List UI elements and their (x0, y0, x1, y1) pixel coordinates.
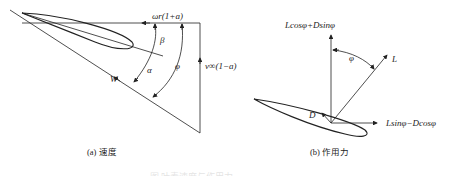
phi-label-b: φ (349, 54, 354, 63)
figure-caption: 图 叶素速度与作用力 (150, 170, 300, 176)
caption-b: (b) 作用力 (310, 148, 349, 157)
w-label: W (110, 75, 118, 84)
alpha-label: α (147, 66, 152, 75)
lift-arrow (331, 55, 387, 123)
v-inf-label: v∞(1−a) (205, 62, 236, 71)
chord-line (22, 13, 163, 56)
phi-label-a: φ (175, 62, 180, 71)
lift-label: L (392, 55, 397, 64)
drag-arrow (322, 113, 331, 123)
drag-label: D (309, 111, 316, 120)
vertical-force-label: Lcosφ+Dsinφ (285, 21, 335, 30)
omega-r-label: ωr(1+a) (152, 12, 183, 21)
beta-label: β (160, 36, 164, 45)
caption-a: (a) 速度 (87, 148, 117, 157)
horizontal-force-label: Lsinφ−Dcosφ (386, 119, 436, 128)
force-diagram (254, 35, 387, 136)
velocity-triangle (10, 10, 200, 133)
diagram-canvas (0, 0, 451, 176)
